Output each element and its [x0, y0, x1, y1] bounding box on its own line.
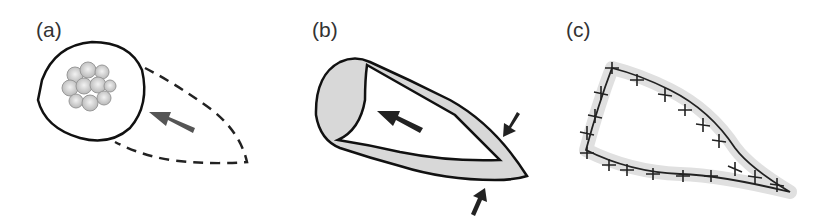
- panel-b: (b): [280, 0, 560, 217]
- panel-c: (c): [550, 0, 826, 217]
- panel-a: (a): [0, 0, 280, 217]
- cell-cluster: [62, 62, 116, 111]
- sutured-wound-diagram: [550, 0, 826, 217]
- excised-tissue-diagram: [280, 0, 560, 217]
- lesion-excision-diagram: [0, 0, 280, 217]
- arrow-icon: [149, 112, 195, 133]
